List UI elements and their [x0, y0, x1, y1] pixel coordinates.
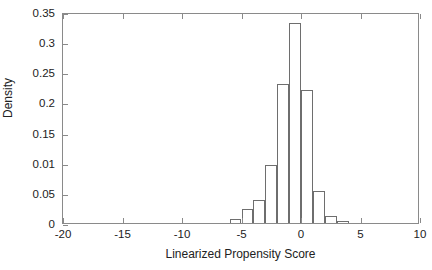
histogram-bar [313, 191, 325, 223]
x-tick-mark [301, 218, 302, 223]
x-tick-mark-top [420, 14, 421, 19]
x-tick-mark-top [182, 14, 183, 19]
plot-area: 00.050.010.150.20.250.30.35 -20-15-10-50… [62, 13, 419, 224]
histogram-bar [337, 221, 349, 223]
histogram-bar [277, 84, 289, 223]
x-tick-label: -10 [174, 229, 191, 241]
y-tick-mark [63, 225, 68, 226]
y-tick-label: 0.3 [39, 38, 55, 50]
x-tick-mark [182, 218, 183, 223]
y-tick-label: 0.25 [33, 69, 55, 81]
x-tick-mark [123, 218, 124, 223]
y-tick-mark [63, 165, 68, 166]
x-tick-mark-top [123, 14, 124, 19]
x-tick-label: -5 [236, 229, 246, 241]
y-tick-mark [63, 104, 68, 105]
x-tick-mark-top [63, 14, 64, 19]
histogram-bar [242, 209, 254, 223]
x-tick-label: 5 [357, 229, 363, 241]
x-tick-label: -20 [55, 229, 72, 241]
x-tick-mark-top [301, 14, 302, 19]
y-tick-mark [63, 195, 68, 196]
x-tick-mark-top [242, 14, 243, 19]
histogram-bar [230, 219, 242, 223]
histogram-bar [289, 23, 301, 223]
histogram-bar [253, 200, 265, 224]
y-tick-mark [63, 135, 68, 136]
y-tick-label: 0.05 [33, 189, 55, 201]
x-axis-title: Linearized Propensity Score [62, 248, 419, 260]
x-tick-label: 10 [414, 229, 427, 241]
x-tick-mark [361, 218, 362, 223]
x-tick-label: 0 [298, 229, 304, 241]
y-tick-label: 0.2 [39, 99, 55, 111]
histogram-bars [63, 14, 418, 223]
y-tick-label: 0.35 [33, 8, 55, 20]
y-tick-label: 0.15 [33, 129, 55, 141]
x-tick-mark [63, 218, 64, 223]
y-tick-label: 0.01 [33, 159, 55, 171]
x-tick-mark [420, 218, 421, 223]
y-axis-title: Density [2, 78, 14, 118]
y-tick-mark [63, 44, 68, 45]
histogram-bar [265, 165, 277, 223]
x-tick-mark [242, 218, 243, 223]
x-tick-label: -15 [114, 229, 131, 241]
histogram-bar [301, 90, 313, 223]
x-tick-mark-top [361, 14, 362, 19]
histogram-bar [325, 216, 337, 223]
y-tick-mark [63, 74, 68, 75]
histogram-figure: 00.050.010.150.20.250.30.35 -20-15-10-50… [0, 0, 432, 270]
